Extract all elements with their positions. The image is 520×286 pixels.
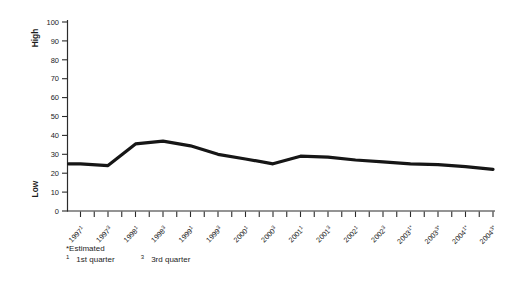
- data-line: [69, 141, 494, 169]
- footnote-text-3: 3rd quarter: [151, 255, 190, 264]
- x-tick-label: 19971: [66, 224, 86, 244]
- y-tick-label: 100: [46, 18, 59, 27]
- x-tick-label: 19983: [149, 224, 169, 244]
- y-axis-label-high: High: [30, 29, 40, 48]
- footnote-quarter-key: 11st quarter 33rd quarter: [66, 255, 190, 265]
- footnote-sup-1: 1: [66, 254, 69, 260]
- footnote-first-quarter: 11st quarter: [66, 255, 115, 265]
- footnote-text-1: 1st quarter: [76, 255, 114, 264]
- footnote-third-quarter: 33rd quarter: [141, 255, 190, 265]
- x-tick-label: 20021: [341, 224, 361, 244]
- y-tick-label: 0: [55, 207, 59, 216]
- x-tick-label: 20013: [314, 224, 334, 244]
- y-tick-label: 60: [51, 93, 59, 102]
- y-tick-label: 50: [51, 112, 59, 121]
- x-tick-label: 20031*: [395, 223, 417, 245]
- x-tick-label: 20023: [369, 224, 389, 244]
- y-tick-label: 20: [51, 169, 59, 178]
- y-tick-label: 30: [51, 150, 59, 159]
- x-tick-label: 19993: [204, 224, 224, 244]
- y-tick-label: 80: [51, 56, 59, 65]
- x-tick-label: 19973: [94, 224, 114, 244]
- x-tick-label: 20041*: [450, 223, 472, 245]
- x-tick-label: 20033*: [422, 223, 444, 245]
- y-axis: 0102030405060708090100HighLow: [30, 18, 68, 216]
- x-tick-label: 19991: [176, 224, 196, 244]
- x-tick-label: 20003: [259, 224, 279, 244]
- line-chart-figure: 0102030405060708090100HighLow19971199731…: [0, 0, 520, 286]
- y-tick-label: 70: [51, 74, 59, 83]
- y-tick-label: 40: [51, 131, 59, 140]
- footnote-sup-3: 3: [141, 254, 144, 260]
- x-tick-label: 19981: [121, 224, 141, 244]
- x-tick-label: 20043*: [477, 223, 499, 245]
- y-tick-label: 10: [51, 188, 59, 197]
- x-tick-label: 20001: [231, 224, 251, 244]
- y-tick-label: 90: [51, 37, 59, 46]
- y-axis-label-low: Low: [30, 180, 40, 197]
- x-axis: 1997119973199811998319991199932000120003…: [66, 211, 499, 246]
- footnote-estimated: *Estimated: [66, 244, 190, 254]
- chart-footnote: *Estimated 11st quarter 33rd quarter: [66, 244, 190, 265]
- x-tick-label: 20011: [286, 224, 306, 244]
